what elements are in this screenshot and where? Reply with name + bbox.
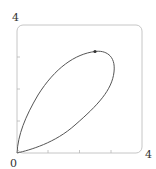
plot-frame [17, 25, 142, 153]
x-ticks [48, 150, 111, 153]
x-max-label: 4 [145, 148, 152, 161]
y-ticks [17, 57, 20, 121]
curve-line [17, 51, 114, 153]
origin-label: 0 [10, 157, 17, 169]
chart: 4 0 4 [0, 0, 156, 169]
data-point-marker [93, 50, 96, 53]
y-max-label: 4 [12, 11, 19, 24]
